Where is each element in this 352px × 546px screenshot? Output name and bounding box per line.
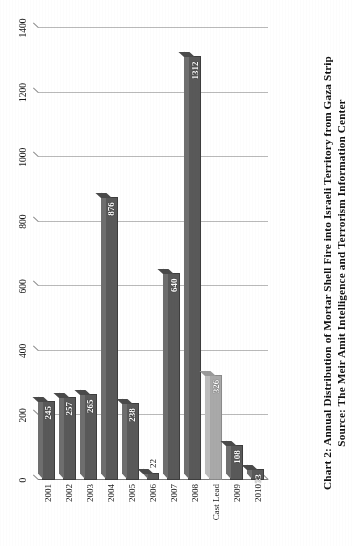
category-label: 2005 — [127, 484, 137, 502]
bar: 257 — [63, 397, 76, 480]
bar-side-face — [116, 399, 133, 404]
bar-top-face — [59, 392, 64, 479]
bar-value-label: 1312 — [190, 61, 200, 79]
category-label: 2009 — [232, 484, 242, 502]
bar: 108 — [230, 445, 243, 480]
bar: 22 — [147, 473, 160, 480]
bar-value-label: 108 — [232, 450, 242, 464]
bar-value-label: 876 — [106, 202, 116, 216]
bar: 876 — [105, 197, 118, 480]
value-tick-label: 200 — [18, 408, 28, 422]
bar: 265 — [84, 394, 97, 480]
bars-container: 24525726587623822640131232610833 — [38, 28, 268, 480]
bar: 640 — [167, 273, 180, 480]
bar-top-face — [205, 370, 210, 479]
bar: 245 — [42, 401, 55, 480]
bar-value-label: 22 — [148, 459, 158, 468]
value-tick-label: 0 — [18, 478, 28, 483]
bar-value-label: 257 — [64, 402, 74, 416]
bar-value-label: 326 — [211, 380, 221, 394]
bar-value-label: 265 — [85, 399, 95, 413]
chart-stage: 0200400600800100012001400 20012002200320… — [0, 0, 352, 546]
bar-side-face — [137, 469, 154, 474]
category-label: 2010 — [253, 484, 263, 502]
chart-caption: Chart 2: Annual Distribution of Mortar S… — [320, 0, 348, 546]
category-label: 2006 — [148, 484, 158, 502]
bar-side-face — [158, 269, 175, 274]
bar-value-label: 245 — [43, 406, 53, 420]
bar-side-face — [53, 393, 70, 398]
category-label: 2004 — [106, 484, 116, 502]
value-tick-label: 600 — [18, 279, 28, 293]
bar: 1312 — [188, 56, 201, 480]
caption-line-2: Source: The Meir Amit Intelligence and T… — [334, 0, 348, 546]
bar-top-face — [101, 193, 106, 479]
category-axis-labels: 20012002200320042005200620072008Cast Lea… — [38, 480, 268, 532]
category-label: 2003 — [85, 484, 95, 502]
bar-side-face — [200, 371, 217, 376]
bar-side-face — [95, 193, 112, 198]
bar-top-face — [38, 396, 43, 479]
value-tick-label: 1000 — [18, 148, 28, 167]
category-label: 2008 — [190, 484, 200, 502]
value-tick-label: 1200 — [18, 83, 28, 102]
category-label: 2007 — [169, 484, 179, 502]
category-label: Cast Lead — [211, 484, 221, 520]
bar-top-face — [80, 390, 85, 479]
bar-value-label: 238 — [127, 408, 137, 422]
bar-top-face — [226, 441, 231, 479]
bar-side-face — [74, 390, 91, 395]
value-tick-label: 400 — [18, 344, 28, 358]
bar-top-face — [122, 399, 127, 479]
bar: 33 — [251, 469, 264, 480]
value-tick-label: 800 — [18, 215, 28, 229]
bar-top-face — [163, 269, 168, 479]
bar: 326 — [209, 375, 222, 480]
bar-value-label: 640 — [169, 278, 179, 292]
category-label: 2001 — [43, 484, 53, 502]
bar-side-face — [221, 441, 238, 446]
caption-line-1: Chart 2: Annual Distribution of Mortar S… — [320, 0, 334, 546]
bar-top-face — [184, 52, 189, 479]
bar-side-face — [179, 52, 196, 57]
bar-side-face — [242, 465, 259, 470]
category-label: 2002 — [64, 484, 74, 502]
plot-area: 0200400600800100012001400 20012002200320… — [16, 14, 304, 532]
bar-value-label: 33 — [253, 474, 263, 483]
value-tick-label: 1400 — [18, 19, 28, 38]
